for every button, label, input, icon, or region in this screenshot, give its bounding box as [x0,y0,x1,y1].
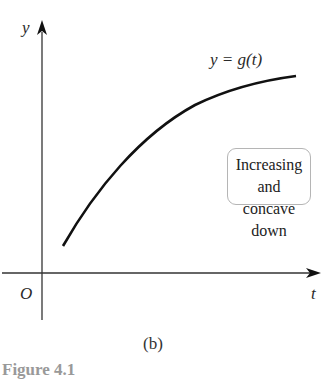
origin-label: O [20,284,32,304]
curve-label: y = g(t) [210,50,262,70]
figure-caption: Figure 4.1 [2,360,75,380]
x-axis-label: t [311,284,316,304]
annotation-line1: Increasing and [228,154,310,198]
subcaption: (b) [143,334,163,354]
annotation-line2: concave down [228,198,310,242]
annotation-box: Increasing and concave down [227,148,311,205]
y-axis-label: y [22,18,30,38]
